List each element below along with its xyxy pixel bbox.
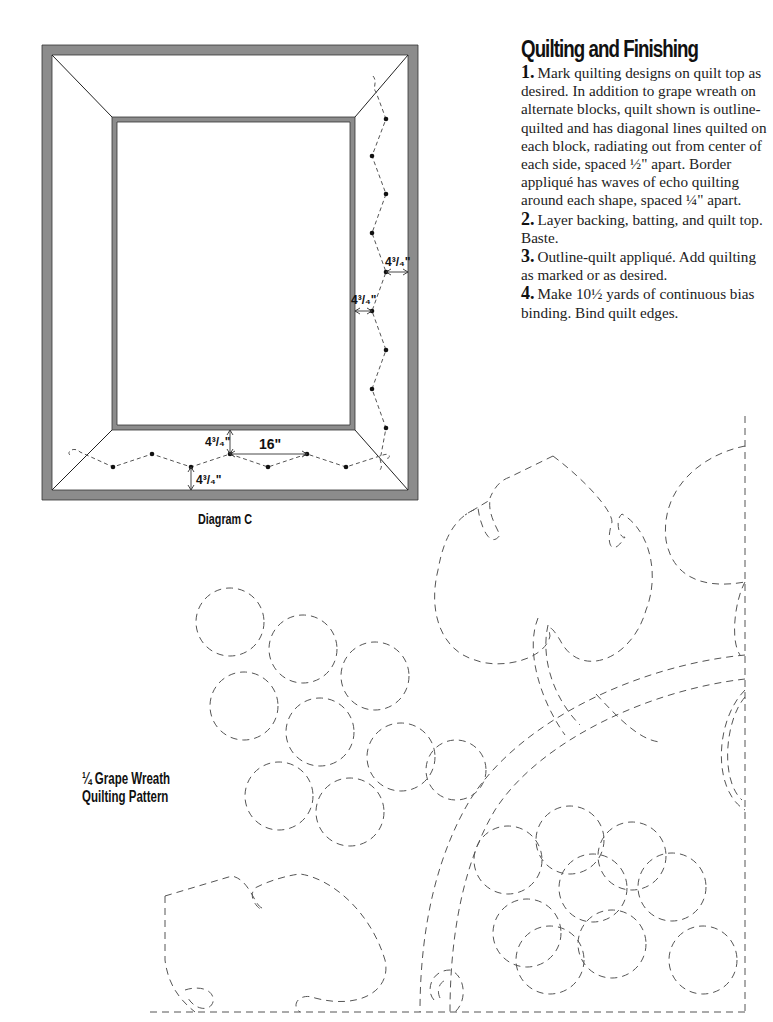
step-text: Outline-quilt appliqué. Add quilting as …: [521, 248, 756, 283]
right-quilting-wave: [372, 76, 386, 470]
step-4: 4.Make 10½ yards of continuous bias bind…: [521, 284, 771, 321]
step-number: 4.: [521, 283, 535, 303]
grape-half-low2: [721, 690, 745, 810]
measure-bottom-outer: 4³/₄": [196, 473, 221, 487]
measure-repeat: 16": [259, 436, 281, 452]
leaf-upper: [435, 456, 653, 664]
diagram-caption: Diagram C: [198, 510, 252, 527]
pattern-label-line1: ¼ Grape Wreath: [82, 770, 170, 788]
grape-wreath-pattern: [150, 416, 745, 1012]
instructions-column: Quilting and Finishing 1.Mark quilting d…: [521, 36, 771, 322]
grape-half-top: [665, 446, 745, 584]
grape-half-mid: [735, 582, 745, 655]
step-number: 2.: [521, 209, 535, 229]
step-2: 2.Layer backing, batting, and quilt top.…: [521, 210, 771, 247]
wreath-arc-outer: [420, 655, 745, 1012]
measure-right-inner: 4³/₄": [351, 293, 376, 307]
step-text: Mark quilting designs on quilt top as de…: [521, 64, 766, 208]
wreath-arc-inner: [450, 679, 745, 1012]
leaf-lower: [165, 874, 386, 1012]
inner-border: [112, 117, 355, 430]
wave-dots: [111, 117, 389, 470]
step-text: Layer backing, batting, and quilt top. B…: [521, 211, 763, 246]
step-number: 1.: [521, 62, 535, 82]
measure-bottom-inner: 4³/₄": [205, 435, 230, 449]
measure-right-outer: 4³/₄": [385, 255, 410, 269]
section-title: Quilting and Finishing: [521, 36, 716, 62]
pattern-label-line2: Quilting Pattern: [82, 788, 170, 806]
diagram-c: 4³/₄" 4³/₄" 4³/₄" 16" 4³/₄": [42, 45, 418, 500]
step-text: Make 10½ yards of continuous bias bindin…: [521, 285, 754, 320]
step-1: 1.Mark quilting designs on quilt top as …: [521, 63, 771, 210]
step-number: 3.: [521, 246, 535, 266]
pattern-label: ¼ Grape Wreath Quilting Pattern: [82, 770, 170, 806]
step-3: 3.Outline-quilt appliqué. Add quilting a…: [521, 247, 771, 284]
